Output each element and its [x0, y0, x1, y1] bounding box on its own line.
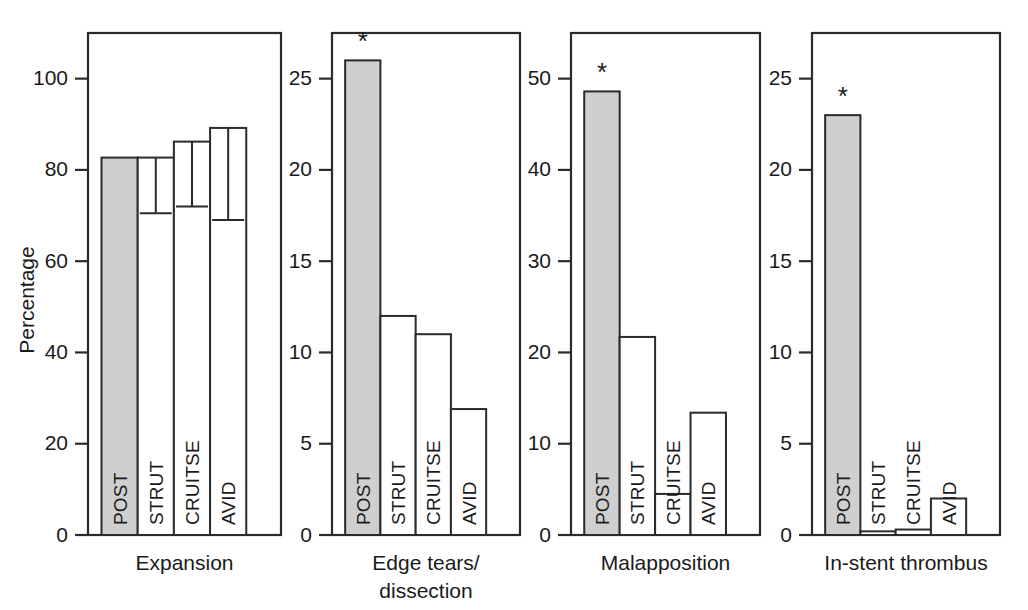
y-tick-label: 50 — [528, 66, 551, 89]
bar-chart-figure: Percentage020406080100POSTSTRUTCRUITSEAV… — [0, 0, 1028, 610]
bar-label-strut: STRUT — [388, 460, 409, 525]
chart-panel-2: 0510152025POST*STRUTCRUITSEAVIDEdge tear… — [289, 26, 520, 602]
y-tick-label: 40 — [45, 340, 68, 363]
panel-caption-1: Expansion — [135, 551, 233, 574]
y-tick-label: 10 — [289, 340, 312, 363]
bar-label-post: POST — [353, 472, 374, 525]
bar-label-post: POST — [833, 472, 854, 525]
chart-panel-4: 0510152025POST*STRUTCRUITSEAVIDIn-stent … — [769, 33, 1000, 574]
y-tick-label: 30 — [528, 249, 551, 272]
bar-post[interactable] — [584, 91, 619, 535]
significance-star-post: * — [597, 57, 607, 87]
bar-label-cruitse: CRUITSE — [663, 440, 684, 525]
significance-star-post: * — [358, 26, 368, 56]
bar-label-strut: STRUT — [146, 460, 167, 525]
y-tick-label: 5 — [780, 431, 792, 454]
y-tick-label: 25 — [289, 66, 312, 89]
bar-label-avid: AVID — [698, 481, 719, 525]
y-tick-label: 5 — [300, 431, 312, 454]
panel-caption-2: dissection — [379, 579, 472, 602]
bar-label-cruitse: CRUITSE — [903, 440, 924, 525]
bar-label-strut: STRUT — [627, 460, 648, 525]
panel-caption-3: Malapposition — [601, 551, 731, 574]
y-tick-label: 10 — [769, 340, 792, 363]
y-tick-label: 15 — [769, 249, 792, 272]
y-tick-label: 100 — [33, 66, 68, 89]
chart-canvas: Percentage020406080100POSTSTRUTCRUITSEAV… — [0, 0, 1028, 610]
bar-label-cruitse: CRUITSE — [182, 440, 203, 525]
y-tick-label: 20 — [289, 157, 312, 180]
bar-label-avid: AVID — [459, 481, 480, 525]
y-tick-label: 20 — [45, 431, 68, 454]
panel-caption-2: Edge tears/ — [372, 551, 480, 574]
y-axis-title: Percentage — [15, 246, 38, 353]
significance-star-post: * — [838, 81, 848, 111]
bar-label-cruitse: CRUITSE — [423, 440, 444, 525]
y-tick-label: 0 — [300, 523, 312, 546]
y-tick-label: 20 — [769, 157, 792, 180]
bar-label-avid: AVID — [218, 481, 239, 525]
bar-strut[interactable] — [860, 531, 895, 535]
bar-label-post: POST — [110, 472, 131, 525]
bar-post[interactable] — [825, 115, 860, 535]
y-tick-label: 0 — [539, 523, 551, 546]
bar-post[interactable] — [345, 60, 380, 535]
y-tick-label: 0 — [780, 523, 792, 546]
chart-panel-1: 020406080100POSTSTRUTCRUITSEAVIDExpansio… — [33, 33, 281, 574]
y-tick-label: 20 — [528, 340, 551, 363]
y-tick-label: 0 — [56, 523, 68, 546]
y-tick-label: 10 — [528, 431, 551, 454]
panel-caption-4: In-stent thrombus — [824, 551, 987, 574]
y-tick-label: 60 — [45, 249, 68, 272]
bar-label-post: POST — [592, 472, 613, 525]
y-tick-label: 40 — [528, 157, 551, 180]
y-tick-label: 15 — [289, 249, 312, 272]
bar-cruitse[interactable] — [896, 530, 931, 535]
y-tick-label: 25 — [769, 66, 792, 89]
bar-label-strut: STRUT — [868, 460, 889, 525]
chart-panel-3: 01020304050POST*STRUTCRUITSEAVIDMalappos… — [528, 33, 760, 574]
y-tick-label: 80 — [45, 157, 68, 180]
bar-label-avid: AVID — [939, 481, 960, 525]
